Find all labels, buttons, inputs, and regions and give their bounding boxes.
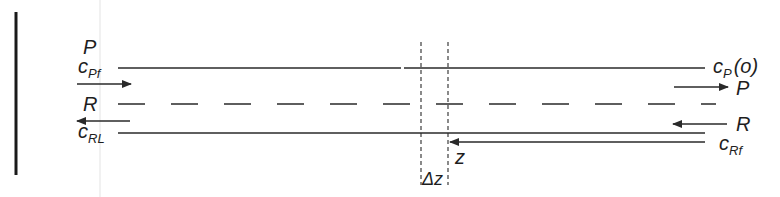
label-c-pf: cPf [78, 55, 102, 81]
diagram-canvas: P cPf R cRL cP(o) P R cRf z Δz [0, 0, 780, 197]
label-z: z [454, 146, 465, 168]
label-r-right: R [736, 113, 750, 135]
label-p-right: P [736, 77, 750, 99]
label-c-rf: cRf [719, 132, 743, 158]
label-r-left: R [83, 93, 97, 115]
label-delta-z: Δz [421, 169, 443, 189]
